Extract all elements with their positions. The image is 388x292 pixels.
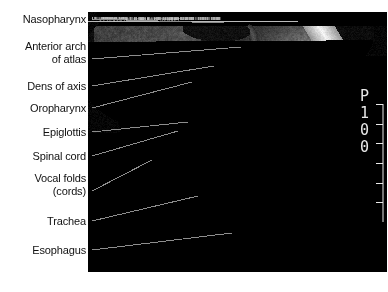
- mri-figure: ··illegible scanner header·· P 1 0 0 Nas…: [0, 0, 388, 292]
- label-trachea: Trachea: [47, 215, 86, 228]
- label-esophagus: Esophagus: [32, 244, 86, 257]
- label-vocal-folds-line2: (cords): [34, 185, 86, 198]
- label-spinal-cord-line1: Spinal cord: [33, 150, 86, 162]
- label-spinal-cord: Spinal cord: [33, 150, 86, 163]
- label-oropharynx-line1: Oropharynx: [30, 102, 86, 114]
- mri-image-panel[interactable]: ··illegible scanner header··: [88, 12, 387, 272]
- label-trachea-line1: Trachea: [47, 215, 86, 227]
- label-vocal-folds: Vocal folds(cords): [34, 172, 86, 197]
- label-anterior-arch-line2: of atlas: [25, 53, 86, 66]
- mri-sagittal-image: [88, 12, 387, 272]
- label-nasopharynx: Nasopharynx: [23, 13, 86, 26]
- label-anterior-arch-line1: Anterior arch: [25, 40, 86, 52]
- label-anterior-arch: Anterior archof atlas: [25, 40, 86, 65]
- label-dens-of-axis-line1: Dens of axis: [27, 80, 86, 92]
- label-vocal-folds-line1: Vocal folds: [34, 172, 86, 184]
- label-nasopharynx-line1: Nasopharynx: [23, 13, 86, 25]
- label-esophagus-line1: Esophagus: [32, 244, 86, 256]
- label-epiglottis-line1: Epiglottis: [43, 126, 86, 138]
- label-epiglottis: Epiglottis: [43, 126, 86, 139]
- scanner-header-text: ··illegible scanner header··: [92, 16, 188, 22]
- label-oropharynx: Oropharynx: [30, 102, 86, 115]
- label-dens-of-axis: Dens of axis: [27, 80, 86, 93]
